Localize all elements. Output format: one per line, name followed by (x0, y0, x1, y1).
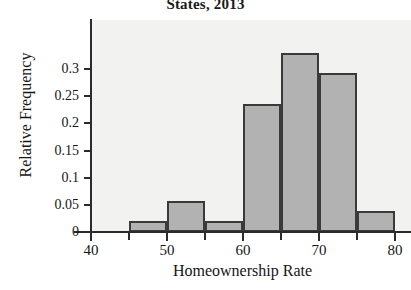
y-axis-title: Relative Frequency (17, 15, 35, 215)
y-tick-label: 0.25 (55, 89, 80, 103)
x-tick-mark (90, 233, 92, 241)
x-tick-mark (394, 233, 396, 241)
histogram-figure: States, 2013 00.050.10.150.20.250.3 4050… (0, 0, 411, 290)
x-tick-label: 80 (375, 243, 411, 258)
y-tick-mark (84, 177, 91, 179)
y-tick-mark (84, 204, 91, 206)
x-tick-mark (242, 233, 244, 241)
x-tick-mark (166, 233, 168, 241)
histogram-bar (319, 73, 357, 232)
x-axis-title: Homeownership Rate (74, 262, 411, 280)
y-tick-label: 0.1 (62, 171, 80, 185)
x-tick-mark (280, 233, 282, 240)
x-tick-label: 70 (299, 243, 339, 258)
y-tick-label: 0.2 (62, 116, 80, 130)
y-tick-label: 0.15 (55, 144, 80, 158)
x-tick-mark (356, 233, 358, 240)
y-tick-label: 0 (72, 225, 79, 239)
x-tick-label: 60 (223, 243, 263, 258)
x-tick-mark (204, 233, 206, 240)
histogram-bar (243, 104, 281, 232)
x-tick-mark (318, 233, 320, 241)
plot-area (91, 20, 411, 232)
y-tick-label: 0.05 (55, 198, 80, 212)
chart-title: States, 2013 (0, 0, 411, 13)
y-tick-mark (84, 122, 91, 124)
histogram-bar (357, 211, 395, 232)
y-tick-mark (84, 150, 91, 152)
y-axis-line (90, 19, 92, 233)
y-tick-mark (84, 68, 91, 70)
x-tick-mark (128, 233, 130, 240)
histogram-bar (167, 201, 205, 232)
histogram-bar (281, 53, 319, 232)
x-tick-label: 50 (147, 243, 187, 258)
x-tick-label: 40 (71, 243, 111, 258)
y-tick-label: 0.3 (62, 62, 80, 76)
y-tick-mark (84, 95, 91, 97)
